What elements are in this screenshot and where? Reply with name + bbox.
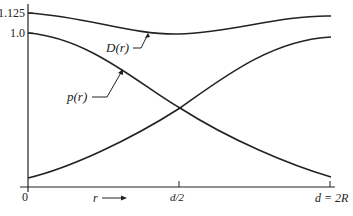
D-leader [133,34,148,48]
x-axis-label: r [93,191,98,205]
curve-p-mirror [28,37,331,178]
label-p: p(r) [66,89,87,104]
x-tick-label-half: d/2 [170,191,185,203]
p-leader [92,71,122,97]
D-arrowhead-icon [145,33,150,38]
y-tick-label-1: 1.0 [10,26,25,40]
label-D: D(r) [105,40,129,55]
x-tick-label-0: 0 [22,190,28,204]
curve-D [28,13,331,34]
right-arrow-icon [121,196,127,201]
figure-canvas: 1.125 1.0 0 d/2 d = 2R r D(r) p(r) [0,0,353,216]
curve-p [28,33,331,177]
x-tick-label-end: d = 2R [315,191,349,205]
y-tick-label-1125: 1.125 [0,6,25,20]
